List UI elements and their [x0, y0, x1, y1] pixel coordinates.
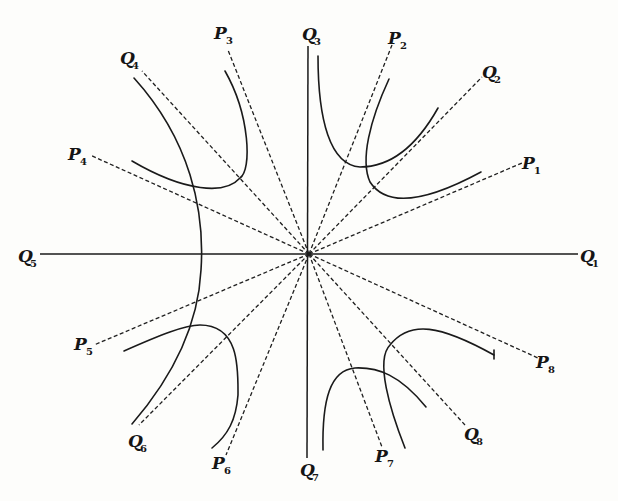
curve-upper-left-branch: [132, 71, 247, 188]
label-subscript: 3: [226, 35, 233, 46]
hyperbola-asymptote-diagram: Q1Q2P1Q3P2P3Q4P4Q5P5Q6P6Q7P7Q8P8: [0, 0, 618, 501]
label-subscript: 2: [494, 74, 501, 85]
dashed-ray-q2: [309, 77, 482, 254]
label-p7: P7: [374, 446, 394, 469]
label-q7: Q7: [300, 460, 319, 483]
label-subscript: 8: [548, 364, 555, 375]
dashed-ray-p7: [309, 254, 382, 447]
dashed-ray-p2: [309, 45, 392, 254]
label-subscript: 6: [224, 465, 231, 476]
label-q4: Q4: [120, 48, 139, 71]
curve-upper-right-b: [366, 79, 481, 198]
dashed-ray-q6: [139, 254, 309, 425]
label-p6: P6: [211, 453, 231, 476]
dashed-ray-p8: [309, 254, 538, 358]
label-subscript: 4: [132, 60, 139, 71]
label-p5: P5: [73, 334, 93, 357]
label-subscript: 6: [140, 443, 147, 454]
curve-big-left-arc: [132, 78, 202, 424]
label-subscript: 1: [592, 258, 599, 269]
label-p3: P3: [213, 23, 233, 46]
label-p2: P2: [387, 28, 407, 51]
dashed-ray-p4: [90, 155, 309, 254]
dashed-ray-q8: [309, 254, 465, 425]
dashed-ray-p1: [309, 163, 522, 254]
dashed-ray-p6: [226, 254, 309, 455]
curve-upper-right-a: [318, 56, 438, 167]
axes-group: [40, 46, 578, 458]
label-subscript: 5: [30, 258, 37, 269]
label-q5: Q5: [18, 246, 37, 269]
label-q1: Q1: [580, 246, 599, 269]
label-p8: P8: [535, 352, 555, 375]
label-q2: Q2: [482, 62, 501, 85]
label-subscript: 4: [80, 156, 87, 167]
label-subscript: 7: [312, 472, 319, 483]
label-p1: P1: [521, 153, 541, 176]
label-q3: Q3: [302, 24, 321, 47]
label-subscript: 1: [534, 165, 541, 176]
label-subscript: 8: [476, 436, 483, 447]
label-subscript: 3: [314, 36, 321, 47]
label-subscript: 7: [387, 458, 394, 469]
label-p4: P4: [67, 144, 87, 167]
dashed-ray-q4: [142, 71, 309, 254]
label-subscript: 5: [86, 346, 93, 357]
curve-lower-right-a: [323, 368, 426, 450]
label-subscript: 2: [400, 40, 407, 51]
label-q8: Q8: [464, 424, 483, 447]
label-q6: Q6: [128, 431, 147, 454]
